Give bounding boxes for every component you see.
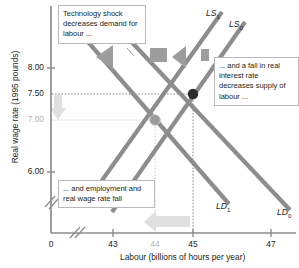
callout-technology-shock: Technology shock decreases demand for la… [58, 5, 146, 44]
x-tick-label-0: 0 [39, 239, 63, 249]
x-tick-label-45: 45 [181, 239, 205, 249]
callout-leader-line [127, 48, 134, 56]
curve-label-ld0-sub: 0 [288, 212, 291, 219]
y-tick-label-800: 8.00 [14, 62, 44, 72]
curve-label-ls1-text: LS [206, 8, 217, 18]
y-tick-label-750: 7.50 [14, 88, 44, 98]
shift-arrow-employment-left [144, 211, 190, 232]
curve-label-ls0-text: LS [229, 19, 240, 29]
curve-label-ls1-sub: 1 [217, 13, 220, 20]
guide-lines [52, 94, 193, 233]
x-tick-label-44: 44 [143, 239, 167, 249]
y-tick-label-700: 7.00 [14, 114, 44, 124]
equilibrium-point-initial [188, 89, 198, 99]
curve-label-ld0: LD0 [277, 207, 291, 219]
x-tick-label-47: 47 [259, 239, 283, 249]
curve-label-ld0-text: LD [277, 207, 288, 217]
curve-label-ls1: LS1 [206, 8, 220, 20]
curve-label-ld1-text: LD [216, 201, 227, 211]
curve-label-ls0-sub: 0 [240, 24, 243, 31]
curve-label-ld1: LD1 [216, 201, 230, 213]
y-tick-label-600: 6.00 [14, 166, 44, 176]
curve-label-ld1-sub: 1 [227, 206, 230, 213]
curve-label-ls0: LS0 [229, 19, 243, 31]
x-tick-label-43: 43 [101, 239, 125, 249]
chart-plot [0, 0, 299, 268]
y-axis-break-mark [45, 196, 59, 209]
figure-canvas: Real wage rate (1995 pounds) Labour (bil… [0, 0, 299, 268]
callout-employment-wage-fall: ... and employment and real wage rate fa… [58, 180, 155, 208]
x-axis-title: Labour (billions of hours per year) [120, 252, 245, 262]
shift-arrow-wage-down [50, 95, 66, 120]
callout-interest-rate-supply: ... and a fall in real interest rate dec… [214, 57, 299, 106]
equilibrium-point-new [150, 115, 160, 125]
